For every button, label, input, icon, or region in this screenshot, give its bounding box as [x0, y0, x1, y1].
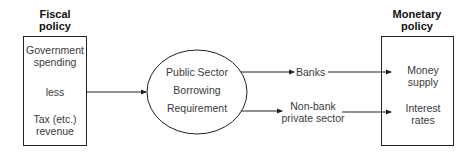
monetary-policy-heading: Monetary policy [380, 8, 454, 32]
text-line: Money [393, 64, 453, 76]
text-line: supply [393, 76, 453, 88]
text-line: Non-bank [278, 100, 348, 112]
text-line: revenue [23, 125, 87, 137]
text-line: private sector [278, 112, 348, 124]
psbr-label: Public Sector Borrowing Requirement [152, 66, 242, 114]
text-line: Tax (etc.) [23, 113, 87, 125]
tax-revenue-label: Tax (etc.) revenue [23, 113, 87, 137]
text-line: Government [23, 44, 87, 56]
text-line: Requirement [152, 102, 242, 114]
text-line: Public Sector [152, 66, 242, 78]
less-label: less [23, 86, 87, 98]
text-line: Borrowing [152, 84, 242, 96]
text-line: spending [23, 56, 87, 68]
text-line: rates [393, 114, 453, 126]
fiscal-heading-line2: policy [20, 20, 90, 32]
money-supply-label: Money supply [393, 64, 453, 88]
nonbank-private-sector-label: Non-bank private sector [278, 100, 348, 124]
banks-label: Banks [296, 66, 330, 78]
interest-rates-label: Interest rates [393, 102, 453, 126]
text-line: Interest [393, 102, 453, 114]
fiscal-heading-line1: Fiscal [20, 8, 90, 20]
monetary-heading-line1: Monetary [380, 8, 454, 20]
fiscal-policy-heading: Fiscal policy [20, 8, 90, 32]
government-spending-label: Government spending [23, 44, 87, 68]
monetary-heading-line2: policy [380, 20, 454, 32]
monetary-policy-box [382, 37, 454, 146]
